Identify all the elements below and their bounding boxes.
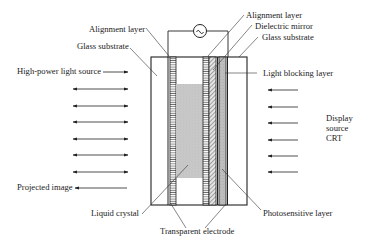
label-light-blocking-layer: Light blocking layer <box>263 69 333 78</box>
dielectric-mirror <box>209 57 216 205</box>
label-transparent-electrode: Transparent electrode <box>160 227 234 236</box>
label-projected-image: Projected image <box>17 183 73 192</box>
right-alignment-layer <box>203 57 209 205</box>
label-glass-substrate-left: Glass substrate <box>77 42 129 51</box>
label-display-source-line3: CRT <box>326 134 342 143</box>
label-dielectric-mirror: Dielectric mirror <box>255 22 313 31</box>
label-high-power-light-source: High-power light source <box>17 67 101 76</box>
liquid-crystal <box>176 84 203 178</box>
left-light-arrows <box>73 72 128 188</box>
label-display-source-line2: source <box>326 124 348 133</box>
label-glass-substrate-right: Glass substrate <box>262 33 314 42</box>
label-display-source-line1: Display <box>326 114 353 123</box>
ac-source <box>168 25 228 58</box>
label-liquid-crystal: Liquid crystal <box>91 209 139 218</box>
device-cross-section <box>151 57 247 205</box>
label-alignment-layer-right: Alignment layer <box>246 11 302 20</box>
label-alignment-layer-left: Alignment layer <box>89 25 145 34</box>
label-photosensitive-layer: Photosensitive layer <box>263 209 332 218</box>
photosensitive-layer <box>219 57 226 205</box>
right-crt-arrows <box>268 90 298 172</box>
ac-source-icon <box>194 25 207 38</box>
